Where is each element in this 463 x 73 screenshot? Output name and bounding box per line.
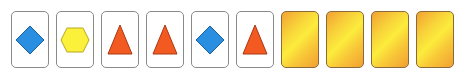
card-triangle[interactable]: [146, 11, 184, 68]
card-face-down[interactable]: [281, 11, 319, 68]
card-diamond[interactable]: [11, 11, 49, 68]
triangle-icon: [102, 12, 138, 67]
card-triangle[interactable]: [236, 11, 274, 68]
diamond-icon: [12, 12, 48, 67]
hexagon-icon: [57, 12, 93, 67]
card-row: [11, 11, 454, 68]
triangle-icon: [147, 12, 183, 67]
card-diamond[interactable]: [191, 11, 229, 68]
card-triangle[interactable]: [101, 11, 139, 68]
card-face-down[interactable]: [416, 11, 454, 68]
diamond-icon: [192, 12, 228, 67]
triangle-icon: [237, 12, 273, 67]
card-hexagon[interactable]: [56, 11, 94, 68]
card-face-down[interactable]: [326, 11, 364, 68]
card-face-down[interactable]: [371, 11, 409, 68]
